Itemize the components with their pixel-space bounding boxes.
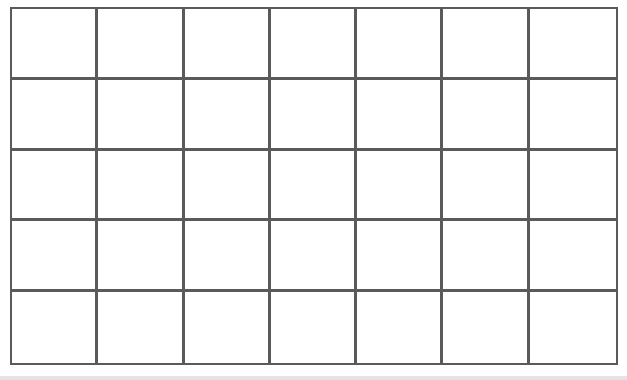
grid-cell	[271, 80, 357, 151]
grid-cell	[12, 151, 98, 222]
grid-cell	[185, 292, 271, 363]
grid-cell	[443, 9, 529, 80]
grid-cell	[271, 292, 357, 363]
bottom-divider	[0, 376, 627, 380]
grid-cell	[98, 221, 184, 292]
grid-cell	[443, 80, 529, 151]
grid-cell	[98, 292, 184, 363]
grid-cell	[443, 292, 529, 363]
grid-cell	[357, 9, 443, 80]
grid-cell	[271, 9, 357, 80]
grid-cell	[12, 292, 98, 363]
grid-cell	[185, 151, 271, 222]
grid-cell	[357, 292, 443, 363]
grid-cell	[12, 9, 98, 80]
grid-cell	[357, 151, 443, 222]
empty-grid-table	[10, 7, 618, 365]
grid-cell	[530, 80, 616, 151]
grid-cell	[271, 151, 357, 222]
grid-cell	[530, 292, 616, 363]
grid-cell	[530, 9, 616, 80]
grid-cell	[98, 151, 184, 222]
grid-cell	[530, 221, 616, 292]
grid-cell	[357, 80, 443, 151]
grid-cell	[12, 221, 98, 292]
grid-cell	[185, 9, 271, 80]
grid-cell	[530, 151, 616, 222]
grid-cell	[185, 80, 271, 151]
grid-cell	[357, 221, 443, 292]
grid-cell	[443, 151, 529, 222]
grid-cell	[185, 221, 271, 292]
grid-cell	[443, 221, 529, 292]
grid-cell	[98, 9, 184, 80]
grid-cell	[12, 80, 98, 151]
grid-cell	[98, 80, 184, 151]
grid-cell	[271, 221, 357, 292]
